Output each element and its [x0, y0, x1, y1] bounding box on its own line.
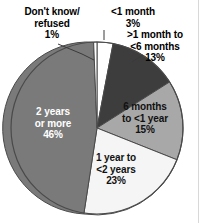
pie-label-6-months-to-lt1-year: 6 months to <1 year 15%	[109, 101, 181, 136]
pie-label-1-year-to-lt2-years: 1 year to <2 years 23%	[78, 152, 154, 187]
pie-label-lt-1-month: <1 month 3%	[97, 6, 169, 29]
pie-label-dont-know-refused: Don't know/ refused 1%	[6, 6, 98, 41]
pie-label-2-years-or-more: 2 years or more 46%	[19, 106, 87, 141]
pie-chart-figure: Don't know/ refused 1% <1 month 3% >1 mo…	[0, 0, 199, 223]
pie-label-gt1-month-to-lt6-months: >1 month to <6 months 13%	[113, 29, 197, 64]
